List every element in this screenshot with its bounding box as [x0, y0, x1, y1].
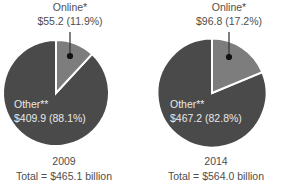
online-value-2014: $96.8 (17.2%)	[196, 15, 262, 27]
online-label-2009: Online*	[53, 1, 87, 13]
total-label-2014: Total = $564.0 billion	[168, 170, 264, 182]
other-value-2014: $467.2 (82.8%)	[170, 112, 242, 124]
online-value-2009: $55.2 (11.9%)	[37, 15, 102, 27]
pie-chart-figure: Online* $55.2 (11.9%) Other** $409.9 (88…	[0, 0, 286, 186]
leader-dot-2014	[226, 54, 232, 60]
other-label-2009: Other**	[14, 98, 48, 110]
total-label-2009: Total = $465.1 billion	[16, 170, 112, 182]
chart-svg: Online* $55.2 (11.9%) Other** $409.9 (88…	[0, 0, 286, 186]
leader-dot-2009	[67, 53, 73, 59]
year-label-2014: 2014	[204, 155, 228, 167]
year-label-2009: 2009	[52, 155, 76, 167]
online-label-2014: Online*	[212, 1, 246, 13]
other-label-2014: Other**	[170, 98, 204, 110]
other-value-2009: $409.9 (88.1%)	[14, 112, 86, 124]
